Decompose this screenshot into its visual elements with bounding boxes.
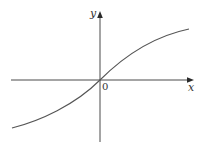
chart-svg: y x 0 [0,0,208,146]
y-axis-label: y [89,7,97,20]
y-axis-arrow-icon [97,11,103,18]
chart-figure: y x 0 [0,0,208,146]
x-axis-label: x [188,81,195,94]
origin-label: 0 [102,81,108,92]
